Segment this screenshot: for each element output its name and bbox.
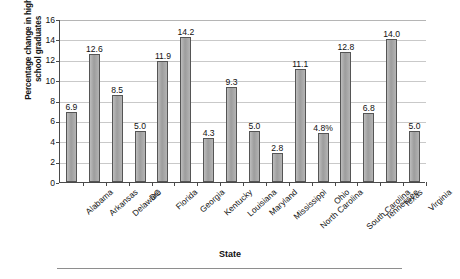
x-tick-mark (289, 182, 290, 186)
y-tick-label: 14 (31, 35, 55, 45)
y-tick-label: 0 (31, 178, 55, 188)
bar-value-label: 8.5 (100, 85, 134, 95)
x-tick-mark (220, 182, 221, 186)
bar (272, 153, 283, 182)
bar (386, 39, 397, 182)
bar (135, 131, 146, 182)
bar-value-label: 14.2 (169, 27, 203, 37)
bar-value-label: 5.0 (398, 121, 432, 131)
bottom-divider (57, 268, 402, 269)
x-tick-mark (266, 182, 267, 186)
bar (409, 131, 420, 182)
bar (180, 37, 191, 182)
x-tick-mark (197, 182, 198, 186)
x-tick-mark (129, 182, 130, 186)
y-tick-mark (56, 183, 59, 184)
y-tick-label: 12 (31, 55, 55, 65)
bar (340, 52, 351, 182)
bar-value-label: 14.0 (375, 29, 409, 39)
bar (226, 87, 237, 182)
bar (363, 113, 374, 182)
bar-value-label: 5.0 (123, 121, 157, 131)
x-tick-mark (357, 182, 358, 186)
x-tick-mark (335, 182, 336, 186)
y-tick-label: 10 (31, 76, 55, 86)
y-tick-label: 16 (31, 15, 55, 25)
x-axis-title: State (0, 249, 460, 259)
bar (112, 95, 123, 182)
x-tick-mark (83, 182, 84, 186)
bar-chart-figure: Percentage change in high school graduat… (0, 0, 460, 279)
bar-value-label: 9.3 (215, 77, 249, 87)
x-tick-mark (243, 182, 244, 186)
x-tick-mark (152, 182, 153, 186)
bar-value-label: 6.8 (352, 103, 386, 113)
bar-value-label: 2.8 (260, 143, 294, 153)
bar-value-label: 12.6 (77, 44, 111, 54)
bar (249, 131, 260, 182)
x-tick-label: Florida (174, 187, 200, 212)
x-tick-mark (174, 182, 175, 186)
bar-value-label: 12.8 (329, 42, 363, 52)
y-tick-label: 6 (31, 116, 55, 126)
bar (66, 112, 77, 182)
bar (89, 54, 100, 182)
bar (295, 69, 306, 182)
x-tick-mark (312, 182, 313, 186)
bar (318, 133, 329, 182)
y-tick-label: 8 (31, 96, 55, 106)
bar-value-label: 11.1 (283, 59, 317, 69)
x-tick-label: Virginia (426, 187, 453, 213)
y-tick-label: 2 (31, 157, 55, 167)
bar-value-label: 4.3 (192, 128, 226, 138)
gridline (60, 61, 426, 62)
bar-value-label: 5.0 (237, 121, 271, 131)
bar-value-label: 11.9 (146, 51, 180, 61)
bar-value-label: 6.9 (54, 102, 88, 112)
gridline (60, 20, 426, 21)
y-tick-label: 4 (31, 137, 55, 147)
x-tick-mark (380, 182, 381, 186)
x-tick-mark (106, 182, 107, 186)
x-tick-mark (426, 182, 427, 186)
gridline (60, 40, 426, 41)
bar (203, 138, 214, 182)
bar (157, 61, 168, 182)
plot-area: 6.912.68.55.011.914.24.39.35.02.811.14.8… (59, 20, 425, 183)
y-axis-title-line2: school graduates (34, 16, 45, 82)
x-tick-mark (403, 182, 404, 186)
bar-value-label: 4.8% (306, 123, 340, 133)
